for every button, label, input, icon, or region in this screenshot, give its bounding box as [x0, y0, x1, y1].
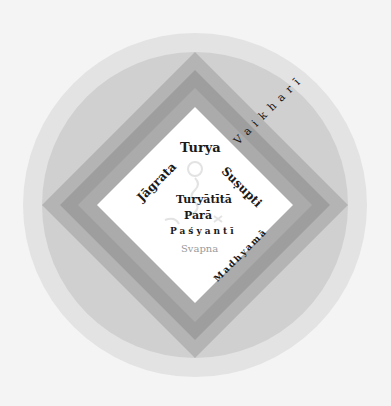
- label-svapna: Svapna: [181, 243, 218, 254]
- label-pasyanti: Paśyantī: [170, 226, 237, 236]
- speech-levels-diagram: Turya Jāgrata Suṣupti Turyātītā Parā Paś…: [0, 0, 391, 406]
- label-turya: Turya: [180, 140, 221, 155]
- label-para: Parā: [184, 209, 212, 222]
- label-turyatita: Turyātītā: [176, 193, 232, 206]
